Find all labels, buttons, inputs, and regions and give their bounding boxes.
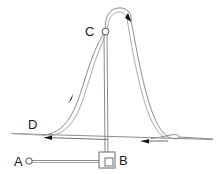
block-b-inner xyxy=(105,158,113,166)
label-d: D xyxy=(28,117,37,132)
arrow-ground-right-icon xyxy=(141,139,149,143)
label-c: C xyxy=(85,24,94,39)
rope-curve-left-inner xyxy=(47,33,106,137)
rope-loop-top-inner xyxy=(107,12,127,32)
arrow-curve-d-icon xyxy=(68,94,73,104)
line-diagram-svg: A B C D xyxy=(0,0,222,174)
label-b: B xyxy=(119,153,128,168)
diagram-canvas: A B C D xyxy=(0,0,222,174)
ground-reference-line xyxy=(11,134,213,140)
label-a: A xyxy=(14,154,23,169)
rope-curve-right-inner xyxy=(128,22,167,139)
pole-line-right xyxy=(107,34,108,153)
point-c-pulley xyxy=(102,28,109,35)
pole-line-left xyxy=(104,34,105,153)
rope-curve-right xyxy=(131,21,168,137)
pull-line-left xyxy=(44,138,108,140)
point-a-pin xyxy=(26,158,32,164)
